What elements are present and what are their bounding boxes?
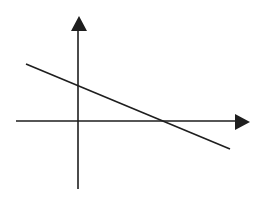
- background: [0, 0, 266, 203]
- coordinate-diagram: [0, 0, 266, 203]
